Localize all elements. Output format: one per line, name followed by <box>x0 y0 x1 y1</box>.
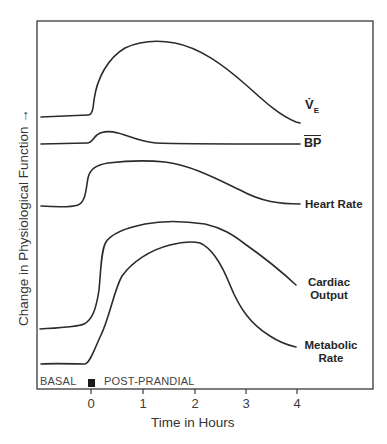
label-cardiac-output-line1: Cardiac <box>303 276 355 289</box>
label-ventilation: V̇E <box>305 98 319 117</box>
curve-blood-pressure <box>41 132 300 144</box>
label-metabolic-rate-line1: Metabolic <box>301 339 361 352</box>
label-metabolic-rate: Metabolic Rate <box>301 339 361 365</box>
x-axis-title: Time in Hours <box>151 415 235 430</box>
x-tick-label-3: 3 <box>236 396 256 411</box>
phase-basal-label: BASAL <box>40 375 76 387</box>
label-cardiac-output: Cardiac Output <box>303 276 355 302</box>
x-tick-label-0: 0 <box>81 396 101 411</box>
label-ventilation-main: V̇ <box>305 97 314 112</box>
curve-cardiac-output <box>40 221 296 329</box>
label-cardiac-output-line2: Output <box>303 289 355 302</box>
curve-ventilation <box>41 41 300 123</box>
x-tick-label-4: 4 <box>287 396 307 411</box>
y-axis-title: Change in Physiological Function → <box>16 109 31 326</box>
meal-marker <box>88 379 95 387</box>
curve-metabolic-rate <box>41 242 296 364</box>
curve-heart-rate <box>41 161 300 207</box>
label-blood-pressure: BP <box>304 135 321 150</box>
x-tick-label-2: 2 <box>185 396 205 411</box>
label-metabolic-rate-line2: Rate <box>301 352 361 365</box>
phase-post-prandial-label: POST-PRANDIAL <box>104 375 195 387</box>
label-ventilation-sub: E <box>314 106 319 115</box>
x-tick-label-1: 1 <box>133 396 153 411</box>
label-heart-rate: Heart Rate <box>305 198 363 211</box>
